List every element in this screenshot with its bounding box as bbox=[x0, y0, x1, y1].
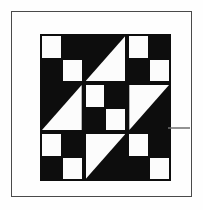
patch-light bbox=[129, 134, 148, 156]
figure-canvas bbox=[0, 0, 203, 210]
patch-light bbox=[42, 36, 61, 58]
patch-light bbox=[86, 85, 105, 107]
patch-dark bbox=[63, 134, 82, 156]
patch-dark bbox=[106, 85, 125, 107]
patch-dark bbox=[86, 109, 105, 131]
patch-dark bbox=[42, 158, 61, 180]
quilt-cell-top-right bbox=[127, 34, 171, 83]
quilt-cell-bottom-left bbox=[40, 132, 84, 181]
patch-light bbox=[63, 158, 82, 180]
quilt-cell-top-center bbox=[84, 34, 128, 83]
patch-light bbox=[106, 109, 125, 131]
patch-light bbox=[150, 158, 169, 180]
quilt-cell-bottom-right bbox=[127, 132, 171, 181]
patch-dark bbox=[150, 134, 169, 156]
patch-dark bbox=[150, 36, 169, 58]
patch-dark bbox=[63, 36, 82, 58]
half-square-triangle bbox=[86, 134, 126, 179]
patch-light bbox=[129, 36, 148, 58]
patch-dark bbox=[129, 60, 148, 82]
quilt-cell-center bbox=[84, 83, 128, 132]
patch-dark bbox=[42, 60, 61, 82]
scan-artifact-mark bbox=[168, 127, 190, 129]
quilt-block-diagram bbox=[40, 34, 171, 181]
half-square-triangle bbox=[86, 36, 126, 81]
patch-light bbox=[42, 134, 61, 156]
patch-dark bbox=[129, 158, 148, 180]
quilt-cell-middle-left bbox=[40, 83, 84, 132]
half-square-triangle bbox=[42, 85, 82, 130]
quilt-cell-middle-right bbox=[127, 83, 171, 132]
patch-light bbox=[63, 60, 82, 82]
quilt-cell-bottom-center bbox=[84, 132, 128, 181]
half-square-triangle bbox=[129, 85, 169, 130]
quilt-cell-top-left bbox=[40, 34, 84, 83]
patch-light bbox=[150, 60, 169, 82]
